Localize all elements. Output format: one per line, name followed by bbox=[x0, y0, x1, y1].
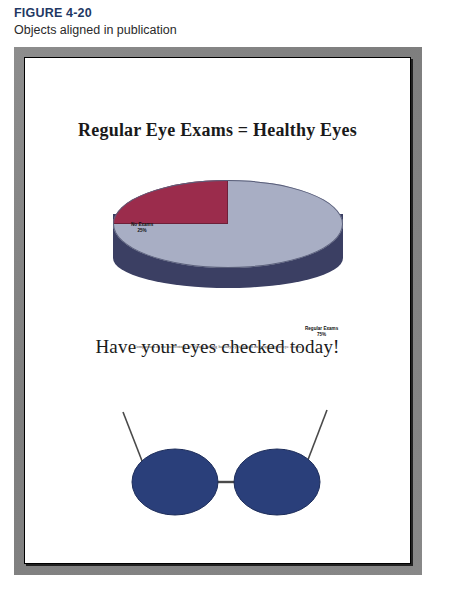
figure-number: FIGURE 4-20 bbox=[14, 6, 434, 21]
pie-label-no-exams-percent: 25% bbox=[131, 228, 153, 234]
eyeglasses-left-lens bbox=[132, 449, 218, 515]
publication-headline: Regular Eye Exams = Healthy Eyes bbox=[25, 120, 410, 141]
eyeglasses-right-lens bbox=[234, 449, 320, 515]
publication-frame: Regular Eye Exams = Healthy Eyes No Exam… bbox=[14, 47, 422, 575]
pie-chart: No Exams 25% Regular Exams 75% Compariso… bbox=[25, 158, 410, 328]
pie-label-no-exams-name: No Exams bbox=[131, 222, 153, 228]
pie-slice-no-exams bbox=[113, 180, 228, 224]
publication-call-to-action: Have your eyes checked today! bbox=[25, 336, 410, 358]
figure-title: Objects aligned in publication bbox=[14, 22, 434, 38]
pie-chart-graphic bbox=[113, 180, 343, 308]
pie-label-regular-exams-name: Regular Exams bbox=[305, 326, 338, 332]
pie-label-no-exams: No Exams 25% bbox=[131, 222, 153, 233]
publication-page: Regular Eye Exams = Healthy Eyes No Exam… bbox=[24, 57, 411, 564]
figure-caption-block: FIGURE 4-20 Objects aligned in publicati… bbox=[14, 6, 434, 38]
eyeglasses-illustration bbox=[111, 406, 339, 526]
